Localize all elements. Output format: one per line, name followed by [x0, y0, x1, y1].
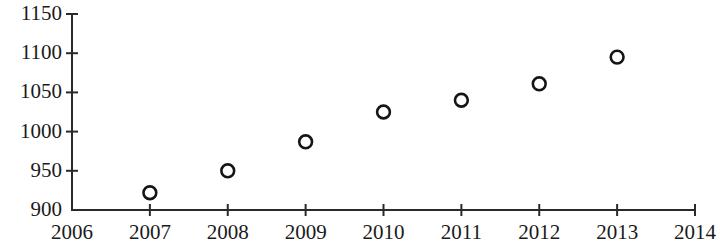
data-point-marker: [533, 77, 546, 90]
scatter-chart: 9009501000105011001150 20062007200820092…: [0, 0, 720, 246]
data-point-markers: [143, 51, 623, 199]
data-point-marker: [611, 51, 624, 64]
y-axis-tick-label: 1100: [21, 42, 62, 63]
y-axis-tick-label: 900: [31, 199, 63, 220]
data-point-marker: [221, 164, 234, 177]
x-axis-tick-label: 2012: [499, 222, 579, 243]
data-point-marker: [299, 135, 312, 148]
x-axis-tick-label: 2007: [110, 222, 190, 243]
x-axis-tick-label: 2013: [577, 222, 657, 243]
plot-area: [0, 0, 720, 246]
y-axis-tick-label: 1150: [21, 3, 62, 24]
axis-lines: [72, 14, 695, 210]
data-point-marker: [143, 186, 156, 199]
x-axis-tick-label: 2010: [344, 222, 424, 243]
x-axis-tick-label: 2014: [655, 222, 720, 243]
x-axis-tick-label: 2009: [266, 222, 346, 243]
y-axis-tick-label: 1050: [20, 81, 62, 102]
data-point-marker: [377, 106, 390, 119]
x-axis-tick-label: 2011: [421, 222, 501, 243]
axes-group: [66, 14, 695, 216]
y-axis-tick-label: 1000: [20, 121, 62, 142]
y-axis-tick-label: 950: [31, 160, 63, 181]
x-axis-tick-label: 2006: [32, 222, 112, 243]
data-point-marker: [455, 94, 468, 107]
x-axis-tick-label: 2008: [188, 222, 268, 243]
